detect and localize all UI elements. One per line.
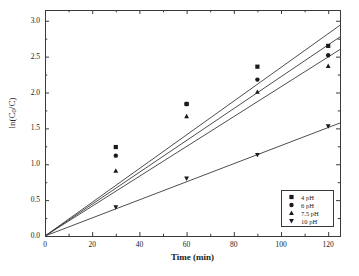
legend-label: 10 pH bbox=[297, 218, 317, 225]
series-2 bbox=[113, 64, 330, 173]
legend-entry-3: 10 pH bbox=[282, 217, 333, 225]
chart-legend: 4 pH6 pH7.5 pH10 pH bbox=[281, 190, 334, 227]
y-axis-title-post: /C) bbox=[7, 98, 17, 110]
y-tick-label: 0.0 bbox=[18, 231, 40, 240]
x-axis-title: Time (min) bbox=[45, 252, 340, 262]
figure-caption bbox=[8, 269, 353, 276]
y-tick-label: 2.0 bbox=[18, 88, 40, 97]
kinetics-scatter-plot bbox=[0, 0, 359, 276]
y-axis-title: ln(C0/C) bbox=[7, 83, 17, 143]
x-tick-label: 80 bbox=[222, 240, 246, 249]
x-tick-label: 40 bbox=[127, 240, 151, 249]
x-tick-label: 100 bbox=[269, 240, 293, 249]
square-marker-icon bbox=[286, 193, 297, 201]
series-1 bbox=[114, 53, 331, 158]
series-0 bbox=[114, 44, 331, 149]
triangle-down-marker-icon bbox=[286, 217, 297, 225]
legend-entry-2: 7.5 pH bbox=[282, 209, 333, 217]
x-tick-label: 20 bbox=[80, 240, 104, 249]
triangle-up-marker-icon bbox=[286, 209, 297, 217]
y-tick-label: 1.0 bbox=[18, 159, 40, 168]
legend-label: 6 pH bbox=[297, 202, 314, 209]
figure-container: ln(C0/C) Time (min) 0.00.51.01.52.02.53.… bbox=[0, 0, 359, 276]
y-tick-label: 0.5 bbox=[18, 195, 40, 204]
x-tick-label: 60 bbox=[175, 240, 199, 249]
legend-entry-0: 4 pH bbox=[282, 193, 333, 201]
legend-label: 4 pH bbox=[297, 194, 314, 201]
y-axis-title-pre: ln(C bbox=[7, 112, 17, 128]
legend-entry-1: 6 pH bbox=[282, 201, 333, 209]
legend-label: 7.5 pH bbox=[297, 210, 319, 217]
y-tick-label: 2.5 bbox=[18, 52, 40, 61]
circle-marker-icon bbox=[286, 201, 297, 209]
y-tick-label: 1.5 bbox=[18, 123, 40, 132]
y-tick-label: 3.0 bbox=[18, 16, 40, 25]
y-axis-title-subscript: 0 bbox=[10, 109, 17, 112]
x-tick-label: 120 bbox=[316, 240, 340, 249]
x-tick-label: 0 bbox=[33, 240, 57, 249]
